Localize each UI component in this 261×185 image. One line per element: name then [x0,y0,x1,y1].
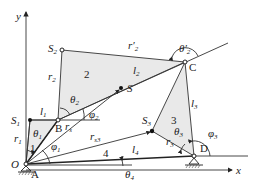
point-s [119,86,123,90]
phi3-label: φ3 [208,127,218,141]
l3-label: l3 [191,97,198,111]
joint-s2 [60,48,64,52]
link-4-label: 4 [103,147,109,159]
origin-label: O [11,158,19,170]
point-d-label: D [200,142,208,154]
point-s2-label: S2 [48,42,58,56]
l1-label: l1 [40,105,47,119]
point-s3-label: S3 [142,114,152,128]
phi1-arc [42,150,50,164]
x-axis-label: x [235,164,241,176]
point-s1 [28,118,32,122]
rs-label: rs [65,120,72,134]
phi1-label: φ1 [51,140,61,154]
r1-label: r1 [14,132,22,146]
rs3-label: rs3 [90,130,101,144]
r2-label: r2 [48,70,56,84]
linkage-diagram: y x O A B C D S S1 S2 S3 1 2 3 4 l1 l2 l… [0,0,261,185]
joint-c [183,60,187,64]
phi2-label: φ2 [89,108,99,122]
point-a-label: A [31,168,39,180]
point-s3 [150,129,154,133]
link-2-label: 2 [84,68,90,80]
point-b-label: B [55,122,62,134]
link-1-label: 1 [30,142,36,154]
point-c-label: C [189,61,196,73]
theta2-prime-label: θ′2 [179,42,191,56]
y-axis-label: y [15,10,21,22]
point-s1-label: S1 [11,114,20,128]
point-s-label: S [127,82,133,94]
l4-label: l4 [132,143,139,157]
r2-prime-label: r′2 [128,39,139,53]
